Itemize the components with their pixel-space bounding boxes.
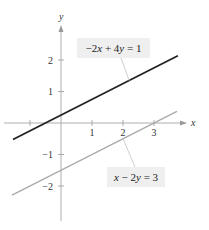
leader-line (121, 58, 129, 80)
equation-label-part: + 4 (102, 42, 120, 54)
x-axis-label: x (190, 117, 196, 128)
equation-label-part: − 2 (119, 171, 136, 183)
line-chart: xy 12321−1−2 −2x + 4y = 1x − 2y = 3 (0, 0, 209, 230)
x-tick-label: 2 (121, 127, 126, 138)
equation-label: −2x + 4y = 1 (86, 42, 142, 54)
y-tick-label: −2 (42, 181, 53, 192)
y-axis-label: y (58, 11, 64, 22)
y-tick-label: −1 (42, 149, 53, 160)
x-tick-label: 1 (90, 127, 95, 138)
y-tick-label: 1 (48, 86, 53, 97)
equation-label-part: = 3 (141, 171, 159, 183)
y-axis-arrow-icon (59, 25, 64, 32)
x-tick-label: 3 (152, 127, 157, 138)
leader-line (123, 139, 135, 167)
equation-label: x − 2y = 3 (113, 171, 159, 183)
x-axis-arrow-icon (180, 121, 187, 126)
annotations: −2x + 4y = 1x − 2y = 3 (77, 38, 165, 187)
y-tick-label: 2 (48, 55, 53, 66)
equation-label-part: = 1 (124, 42, 141, 54)
equation-label-part: −2 (86, 42, 98, 54)
